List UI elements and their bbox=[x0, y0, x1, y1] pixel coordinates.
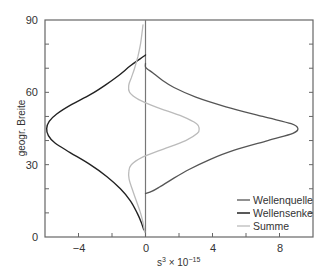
series-wellensenke bbox=[47, 55, 146, 230]
x-axis-title: s3 × 10−15 bbox=[157, 256, 200, 268]
y-tick-label-0: 0 bbox=[32, 231, 38, 243]
y-tick-label-30: 30 bbox=[26, 159, 38, 171]
x-tick-label-minus4: −4 bbox=[73, 242, 86, 254]
series-wellenquelle bbox=[145, 63, 298, 193]
x-axis-title-mid: × 10 bbox=[166, 257, 189, 268]
legend: Wellenquelle Wellensenke Summe bbox=[237, 194, 313, 232]
legend-label-wellensenke: Wellensenke bbox=[253, 207, 313, 219]
y-axis-title: geogr. Breite bbox=[16, 99, 27, 156]
legend-label-wellenquelle: Wellenquelle bbox=[253, 194, 313, 206]
y-tick-label-60: 60 bbox=[26, 86, 38, 98]
legend-label-summe: Summe bbox=[253, 220, 289, 232]
x-tick-label-8: 8 bbox=[277, 242, 283, 254]
x-tick-label-4: 4 bbox=[210, 242, 216, 254]
series-summe bbox=[128, 25, 199, 232]
x-axis-title-exp: −15 bbox=[188, 256, 200, 263]
chart: 90 60 30 0 −4 0 4 8 geogr. Breite s3 × 1… bbox=[0, 0, 328, 273]
y-tick-label-90: 90 bbox=[26, 14, 38, 26]
x-tick-label-0: 0 bbox=[143, 242, 149, 254]
